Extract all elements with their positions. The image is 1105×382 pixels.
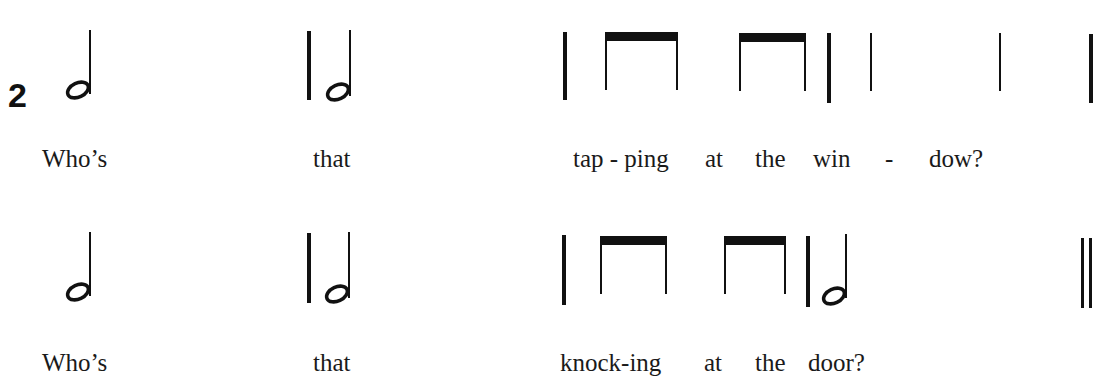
lyric-syllable: at xyxy=(704,350,722,375)
quarter-note-stem-icon xyxy=(870,33,872,91)
lyric-syllable: the xyxy=(755,146,786,171)
lyric-syllable: door? xyxy=(808,350,865,375)
lyric-syllable: win xyxy=(813,146,851,171)
barline xyxy=(562,235,566,305)
lyric-syllable: the xyxy=(755,350,786,375)
lyric-syllable: tap - ping xyxy=(573,146,669,171)
barline xyxy=(307,233,311,303)
barline xyxy=(806,236,810,307)
exercise-number: 2 xyxy=(8,78,27,112)
lyric-syllable: that xyxy=(313,146,351,171)
lyric-syllable: dow? xyxy=(929,146,983,171)
barline xyxy=(563,32,567,100)
barline xyxy=(1089,34,1093,103)
lyric-syllable: Who’s xyxy=(42,146,107,171)
barline xyxy=(827,33,831,103)
lyric-hyphen: - xyxy=(885,146,893,171)
lyric-syllable: that xyxy=(313,350,351,375)
barline xyxy=(307,31,311,100)
lyric-syllable: Who’s xyxy=(42,350,107,375)
lyric-syllable: at xyxy=(705,146,723,171)
quarter-note-stem-icon xyxy=(999,33,1001,91)
lyric-syllable: knock-ing xyxy=(560,350,661,375)
